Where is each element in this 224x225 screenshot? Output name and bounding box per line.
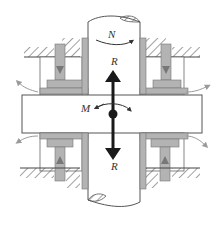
flow-arrow-icon	[18, 136, 38, 142]
flow-arrow-icon	[186, 86, 208, 92]
housing-hatch-lower-left-inner	[66, 168, 80, 188]
housing-hatch-lower-right	[172, 168, 200, 178]
flow-arrow-icon	[186, 136, 206, 146]
housing-hatch-upper-right	[172, 47, 200, 57]
label-moment: M	[80, 102, 91, 114]
lower-left-pad	[40, 133, 88, 189]
upper-left-pad	[40, 38, 88, 95]
housing-hatch-lower-left	[20, 168, 54, 178]
pivot-point	[109, 110, 118, 119]
housing-hatch-lower-right-inner	[146, 168, 158, 188]
label-force-top: R	[110, 55, 118, 67]
flow-arrow-icon	[18, 82, 38, 92]
label-rotation: N	[107, 28, 116, 40]
label-force-bottom: R	[110, 160, 118, 172]
bearing-diagram: N	[0, 0, 224, 225]
housing-hatch-upper-left	[24, 47, 54, 57]
